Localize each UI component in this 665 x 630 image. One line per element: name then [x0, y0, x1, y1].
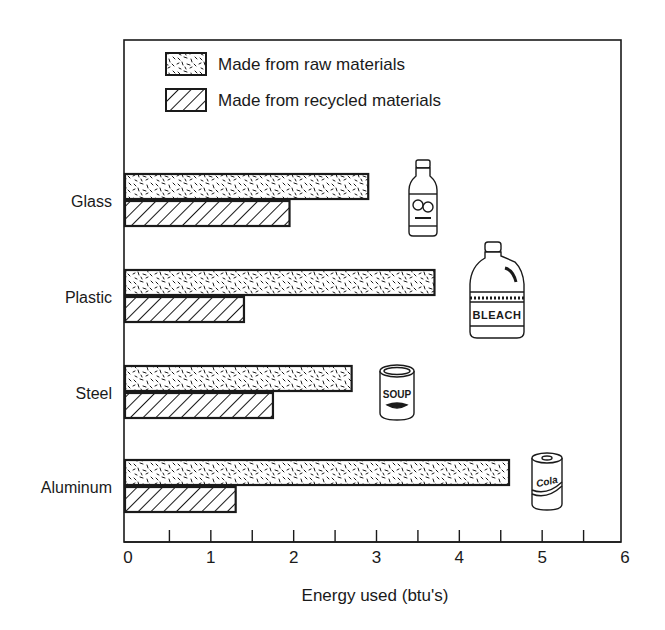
juice-bottle-icon [409, 160, 437, 236]
category-label: Plastic [65, 289, 112, 306]
x-axis-label: Energy used (btu's) [302, 586, 449, 605]
bleach-label: BLEACH [473, 309, 522, 321]
category-label: Glass [71, 193, 112, 210]
bar-group-aluminum [125, 460, 509, 512]
category-label: Aluminum [41, 479, 112, 496]
category-labels: GlassPlasticSteelAluminum [41, 193, 112, 496]
legend-item: Made from raw materials [166, 53, 405, 75]
legend: Made from raw materialsMade from recycle… [166, 53, 441, 111]
legend-label: Made from recycled materials [218, 91, 441, 110]
legend-label: Made from raw materials [218, 55, 405, 74]
bar-raw [125, 270, 434, 295]
x-tick-label: 6 [620, 548, 629, 567]
bar-recycled [125, 297, 244, 322]
icons-group: BLEACH SOUP Cola [380, 160, 562, 510]
soup-can-icon: SOUP [380, 365, 414, 420]
legend-swatch-recycled [166, 89, 206, 111]
category-label: Steel [76, 385, 112, 402]
bar-group-steel [125, 366, 352, 418]
legend-item: Made from recycled materials [166, 89, 441, 111]
x-tick-label: 2 [289, 548, 298, 567]
bleach-jug-icon: BLEACH [470, 242, 524, 338]
bar-raw [125, 460, 509, 485]
x-tick-label: 0 [123, 548, 132, 567]
bar-raw [125, 174, 368, 199]
bar-group-glass [125, 174, 368, 226]
x-tick-label: 5 [537, 548, 546, 567]
bar-recycled [125, 201, 290, 226]
bar-recycled [125, 393, 273, 418]
chart-canvas: Made from raw materialsMade from recycle… [0, 0, 665, 630]
x-tick-label: 4 [455, 548, 464, 567]
cola-can-icon: Cola [532, 453, 562, 510]
legend-swatch-raw [166, 53, 206, 75]
bar-recycled [125, 487, 236, 512]
x-tick-label: 1 [206, 548, 215, 567]
soup-label: SOUP [383, 389, 412, 400]
energy-bar-chart: Made from raw materialsMade from recycle… [0, 0, 665, 630]
bar-group-plastic [125, 270, 434, 322]
bar-raw [125, 366, 352, 391]
bars-group [125, 174, 509, 512]
x-axis: 0123456 [123, 530, 629, 567]
x-tick-label: 3 [372, 548, 381, 567]
